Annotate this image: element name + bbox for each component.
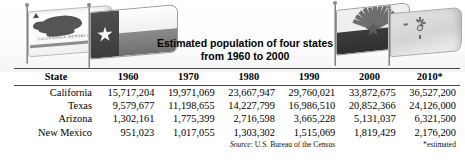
table-header: State 1960 1970 1980 1990 2000 2010* [14, 69, 460, 86]
cell-1990: 16,986,510 [279, 99, 339, 112]
population-table-figure: CALIFORNIA REPUBLIC [0, 0, 465, 161]
cell-1960: 9,579,677 [98, 99, 158, 112]
column-header-2010: 2010* [400, 69, 460, 86]
cell-state: New Mexico [14, 126, 98, 139]
table-header-row: State 1960 1970 1980 1990 2000 2010* [14, 69, 460, 86]
cell-2010: 2,176,200 [400, 126, 460, 139]
figure-title-line2: from 1960 to 2000 [150, 50, 340, 63]
source-note: Source: U.S. Bureau of the Census [14, 139, 339, 150]
cell-1970: 19,971,069 [158, 86, 218, 100]
cell-state: Arizona [14, 112, 98, 125]
column-header-1990: 1990 [279, 69, 339, 86]
table-row: New Mexico 951,023 1,017,055 1,303,302 1… [14, 126, 460, 139]
cell-2000: 5,131,037 [339, 112, 399, 125]
column-header-1970: 1970 [158, 69, 218, 86]
source-text: : U.S. Bureau of the Census [251, 140, 336, 149]
table-row: California 15,717,204 19,971,069 23,667,… [14, 86, 460, 100]
cell-1960: 951,023 [98, 126, 158, 139]
column-header-state: State [14, 69, 98, 86]
cell-state: California [14, 86, 98, 100]
cell-1980: 1,303,302 [219, 126, 279, 139]
estimated-note: *estimated [339, 139, 460, 150]
cell-1980: 14,227,799 [219, 99, 279, 112]
cell-2000: 33,872,675 [339, 86, 399, 100]
cell-2010: 36,527,200 [400, 86, 460, 100]
cell-1990: 1,515,069 [279, 126, 339, 139]
figure-title: Estimated population of four states from… [150, 37, 340, 62]
cell-2000: 20,852,366 [339, 99, 399, 112]
cell-2010: 24,126,000 [400, 99, 460, 112]
cell-1960: 1,302,161 [98, 112, 158, 125]
cell-1970: 1,775,399 [158, 112, 218, 125]
cell-2010: 6,321,500 [400, 112, 460, 125]
figure-title-line1: Estimated population of four states [150, 37, 340, 50]
cell-1970: 1,017,055 [158, 126, 218, 139]
cell-1980: 23,667,947 [219, 86, 279, 100]
zia-sun-icon [413, 20, 427, 35]
cell-state: Texas [14, 99, 98, 112]
column-header-1960: 1960 [98, 69, 158, 86]
cell-1990: 29,760,021 [279, 86, 339, 100]
source-label: Source [230, 140, 251, 149]
column-header-1980: 1980 [219, 69, 279, 86]
table-footer-row: Source: U.S. Bureau of the Census *estim… [14, 139, 460, 150]
new-mexico-flag [386, 6, 464, 66]
table-body: California 15,717,204 19,971,069 23,667,… [14, 86, 460, 150]
cell-1970: 11,198,655 [158, 99, 218, 112]
cell-1960: 15,717,204 [98, 86, 158, 100]
cell-2000: 1,819,429 [339, 126, 399, 139]
column-header-2000: 2000 [339, 69, 399, 86]
table-row: Texas 9,579,677 11,198,655 14,227,799 16… [14, 99, 460, 112]
population-table: State 1960 1970 1980 1990 2000 2010* Cal… [14, 68, 460, 150]
california-star-icon [33, 13, 39, 18]
population-table-container: State 1960 1970 1980 1990 2000 2010* Cal… [0, 68, 465, 150]
cell-1990: 3,665,228 [279, 112, 339, 125]
cell-1980: 2,716,598 [219, 112, 279, 125]
table-row: Arizona 1,302,161 1,775,399 2,716,598 3,… [14, 112, 460, 125]
